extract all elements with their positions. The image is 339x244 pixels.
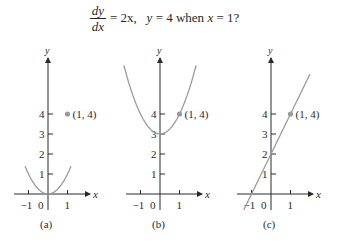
y-tick-label: 2 <box>262 148 268 160</box>
x-tick-label-neg: −1 <box>21 199 33 211</box>
x-tick-label-neg: −1 <box>244 199 256 211</box>
plot-panel-b: xy−1011234(1, 4)(b) <box>124 45 210 231</box>
x-axis-label: x <box>204 188 210 200</box>
y-axis-label: y <box>44 45 50 56</box>
y-tick-label: 2 <box>151 148 157 160</box>
y-tick-label: 1 <box>151 168 157 180</box>
y-tick-label: 4 <box>39 108 45 120</box>
y-tick-label: 1 <box>39 168 45 180</box>
x-axis-label: x <box>92 188 98 200</box>
function-curve <box>244 74 310 210</box>
plot-panel-c: xy−1011234(1, 4)(c) <box>237 45 321 231</box>
panel-caption: (b) <box>152 218 165 231</box>
panels-container: xy−1011234(1, 4)(a)xy−1011234(1, 4)(b)xy… <box>14 45 321 231</box>
y-axis-label: y <box>156 45 162 56</box>
x-tick-label-pos: 1 <box>177 199 183 211</box>
panel-caption: (c) <box>263 218 276 231</box>
x-tick-label-pos: 1 <box>65 199 71 211</box>
y-tick-label: 4 <box>262 108 268 120</box>
x-tick-label-neg: −1 <box>133 199 145 211</box>
y-tick-label: 2 <box>39 148 45 160</box>
point-label: (1, 4) <box>73 108 97 121</box>
point-label: (1, 4) <box>296 108 320 121</box>
highlight-point <box>288 111 293 116</box>
y-tick-label: 3 <box>262 128 268 140</box>
y-tick-label: 3 <box>39 128 45 140</box>
origin-label: 0 <box>38 199 44 211</box>
highlight-point <box>177 111 182 116</box>
point-label: (1, 4) <box>185 108 209 121</box>
y-tick-label: 4 <box>151 108 157 120</box>
panel-caption: (a) <box>40 218 53 231</box>
plots-figure: xy−1011234(1, 4)(a)xy−1011234(1, 4)(b)xy… <box>0 0 339 244</box>
origin-label: 0 <box>150 199 156 211</box>
origin-label: 0 <box>261 199 267 211</box>
x-axis-label: x <box>315 188 321 200</box>
x-tick-label-pos: 1 <box>288 199 294 211</box>
plot-panel-a: xy−1011234(1, 4)(a) <box>14 45 98 231</box>
highlight-point <box>65 111 70 116</box>
y-axis-label: y <box>267 45 273 56</box>
